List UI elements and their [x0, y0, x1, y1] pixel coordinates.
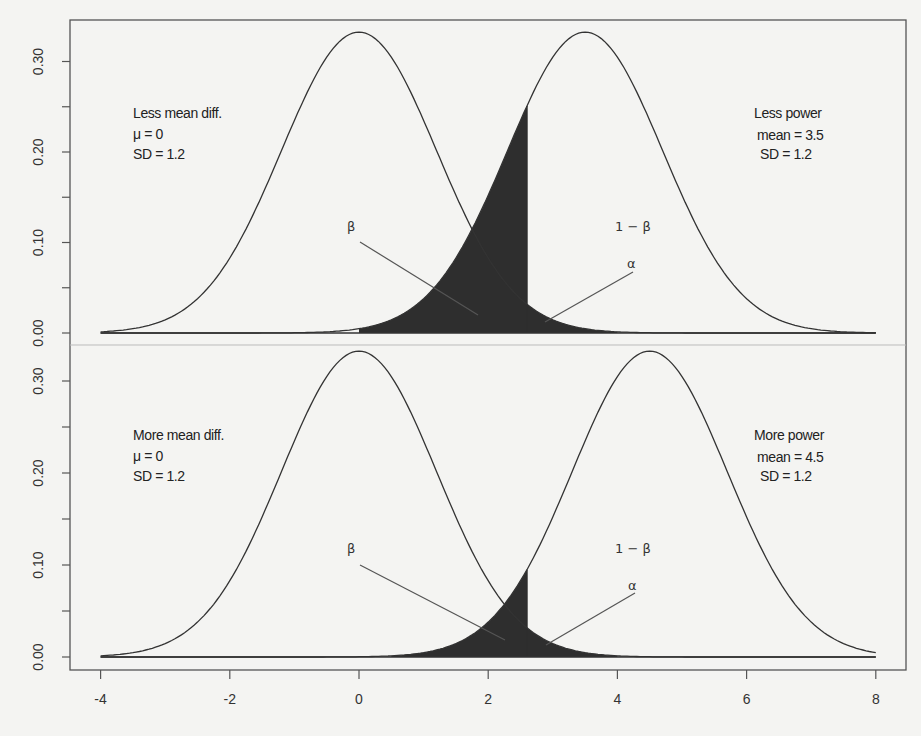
left-mu: μ = 0	[133, 126, 163, 142]
power-label: 1 − β	[615, 541, 651, 556]
left-mu: μ = 0	[133, 448, 163, 464]
right-sd: SD = 1.2	[760, 146, 812, 162]
y-tick-label: 0.10	[30, 551, 46, 578]
y-tick-label: 0.20	[30, 138, 46, 165]
x-axis: -4-202468	[94, 670, 880, 707]
y-axis: 0.000.100.200.30	[30, 48, 70, 347]
beta-region	[359, 106, 527, 333]
alpha-label: α	[627, 256, 636, 271]
power-analysis-chart: 0.000.100.200.30 Less mean diff. μ = 0 S…	[0, 0, 921, 736]
right-mean: mean = 3.5	[757, 127, 824, 143]
alpha-pointer	[545, 272, 633, 322]
beta-pointer	[360, 565, 505, 640]
right-sd: SD = 1.2	[760, 468, 812, 484]
beta-label: β	[347, 541, 355, 556]
x-tick-label: 0	[355, 691, 363, 707]
alpha-label: α	[628, 578, 637, 593]
x-tick-label: 2	[484, 691, 492, 707]
x-tick-label: 8	[872, 691, 880, 707]
alpha-region	[527, 628, 617, 657]
y-tick-label: 0.30	[30, 48, 46, 75]
right-title: Less power	[754, 105, 822, 121]
beta-region	[391, 570, 527, 657]
x-tick-label: 4	[614, 691, 622, 707]
power-label: 1 − β	[615, 219, 651, 234]
y-axis: 0.000.100.200.30	[30, 367, 70, 670]
left-title: More mean diff.	[133, 427, 224, 443]
y-tick-label: 0.00	[30, 319, 46, 346]
alternative-distribution-curve	[101, 351, 876, 657]
alpha-pointer	[546, 593, 635, 645]
right-mean: mean = 4.5	[757, 449, 824, 465]
y-tick-label: 0.20	[30, 459, 46, 486]
bottom-panel: 0.000.100.200.30 More mean diff. μ = 0 S…	[30, 351, 876, 671]
y-tick-label: 0.30	[30, 367, 46, 394]
top-panel: 0.000.100.200.30 Less mean diff. μ = 0 S…	[30, 32, 876, 347]
beta-label: β	[347, 219, 355, 234]
left-title: Less mean diff.	[133, 105, 222, 121]
shaded-regions	[359, 106, 617, 333]
null-distribution-curve	[101, 351, 876, 657]
x-tick-label: 6	[743, 691, 751, 707]
right-title: More power	[754, 427, 825, 443]
alpha-region	[527, 304, 617, 333]
left-sd: SD = 1.2	[133, 468, 185, 484]
shaded-regions	[391, 570, 617, 657]
y-tick-label: 0.10	[30, 229, 46, 256]
left-sd: SD = 1.2	[133, 146, 185, 162]
x-tick-label: -2	[224, 691, 237, 707]
y-tick-label: 0.00	[30, 643, 46, 670]
x-tick-label: -4	[94, 691, 107, 707]
